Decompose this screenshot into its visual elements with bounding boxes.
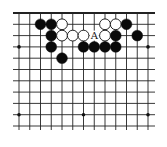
white-stone [57, 19, 68, 30]
black-stone [110, 42, 121, 53]
star-point [146, 45, 150, 49]
white-stone [100, 19, 111, 30]
white-stone [57, 30, 68, 41]
point-label: A [90, 30, 99, 41]
white-stone [78, 30, 89, 41]
white-stone [100, 30, 111, 41]
white-stone [67, 30, 78, 41]
black-stone [46, 30, 57, 41]
star-point [17, 113, 21, 117]
go-board: A [0, 0, 167, 147]
black-stone [132, 30, 143, 41]
black-stone [89, 42, 100, 53]
black-stone [57, 53, 68, 64]
black-stone [35, 19, 46, 30]
black-stone [78, 42, 89, 53]
black-stone [121, 19, 132, 30]
star-point [82, 113, 86, 117]
star-point [146, 113, 150, 117]
black-stone [46, 19, 57, 30]
point-labels: A [90, 30, 99, 41]
black-stone [46, 42, 57, 53]
black-stone [110, 30, 121, 41]
black-stone [100, 42, 111, 53]
star-point [17, 45, 21, 49]
white-stone [110, 19, 121, 30]
